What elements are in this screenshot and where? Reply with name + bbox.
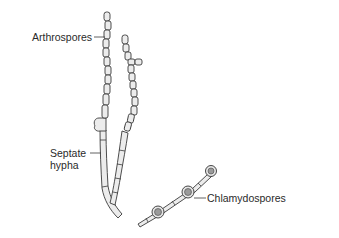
septate-label-line2: hypha bbox=[50, 159, 79, 171]
arthrospores-label: Arthrospores bbox=[32, 31, 92, 43]
right-arthrospore-chain bbox=[122, 35, 142, 132]
right-lower-hypha bbox=[110, 131, 128, 205]
chlamydospore bbox=[206, 166, 217, 177]
fungal-hyphae-diagram: Arthrospores Septate hypha Chlamydospore… bbox=[0, 0, 339, 238]
hypha-bulge bbox=[94, 118, 106, 131]
left-arthrospore-chain bbox=[102, 12, 111, 118]
chlamydospore-chain bbox=[138, 166, 217, 228]
chlamydospores-label: Chlamydospores bbox=[207, 192, 286, 204]
chlamydospore bbox=[182, 186, 194, 198]
chlamydospore bbox=[152, 206, 164, 218]
septate-label-line1: Septate bbox=[50, 147, 86, 159]
